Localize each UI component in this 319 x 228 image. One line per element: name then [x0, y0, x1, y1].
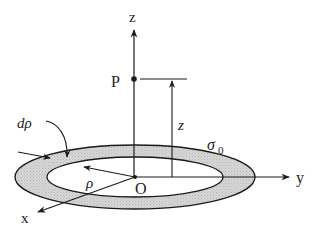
outer-edge-pointer-arrow [18, 152, 50, 158]
sigma-label: σ [207, 136, 216, 153]
origin-dot [133, 175, 137, 179]
point-p-label: P [111, 73, 120, 90]
d-rho-label: dρ [17, 115, 32, 131]
height-z-label: z [177, 117, 184, 133]
sigma-subscript: 0 [218, 144, 224, 156]
y-axis-label: y [296, 169, 304, 187]
point-p-dot [131, 76, 137, 82]
z-axis-label: z [129, 9, 136, 25]
ring-diagram: z P z dρ ρ O y x σ 0 [0, 0, 319, 228]
diagram-canvas: z P z dρ ρ O y x σ 0 [0, 0, 319, 228]
rho-label: ρ [85, 175, 93, 191]
origin-label: O [135, 180, 147, 197]
x-axis-label: x [21, 210, 29, 226]
